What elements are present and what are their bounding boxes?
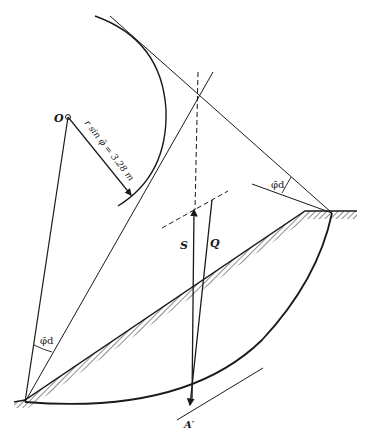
friction-circle-diagram: O r sin φ̄ = 3.28 m φ̄d φ̄d S Q A′	[0, 0, 377, 436]
a-prime-line	[177, 368, 263, 420]
a-prime-label: A′	[183, 419, 195, 430]
phi-label-crest: φ̄d	[271, 179, 285, 190]
r-sin-phi-label: r sin φ̄ = 3.28 m	[82, 118, 136, 183]
crest-phi-line	[252, 184, 332, 213]
force-q-label: Q	[210, 237, 220, 250]
force-s-label: S	[180, 239, 188, 252]
phi-angle-arc-toe	[34, 345, 52, 352]
phi-label-toe: φ̄d	[40, 335, 54, 346]
center-label: O	[54, 112, 64, 125]
radius-line-to-toe	[25, 117, 68, 402]
